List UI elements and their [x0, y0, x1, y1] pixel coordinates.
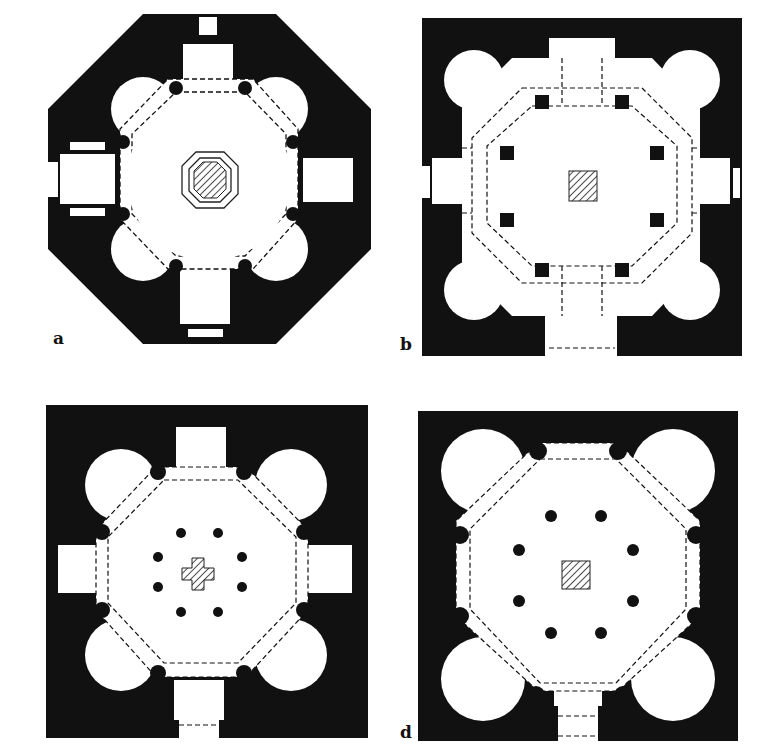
plan-d-drawing [418, 411, 738, 741]
plan-c-label: c [46, 722, 56, 742]
plan-b [422, 18, 742, 356]
plan-d [418, 411, 738, 741]
plan-a-label: a [53, 328, 64, 348]
plan-b-label: b [400, 334, 412, 354]
plan-c [46, 405, 368, 738]
plan-a-drawing [48, 14, 373, 344]
plan-d-label: d [400, 722, 412, 742]
plan-b-drawing [422, 18, 742, 356]
plan-c-drawing [46, 405, 368, 738]
plan-a [48, 14, 373, 344]
